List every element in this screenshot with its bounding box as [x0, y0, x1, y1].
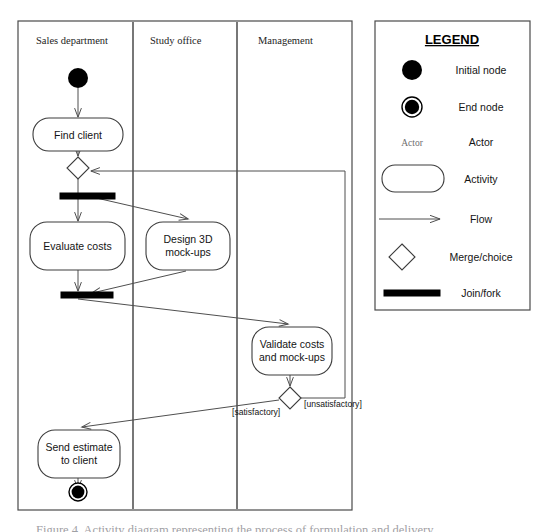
activity-node-validate-label-line2: and mock-ups [259, 351, 325, 363]
activity-node-send-estimate[interactable]: Send estimate to client [38, 430, 120, 478]
flow-design-mockups-to-join [92, 271, 186, 293]
figure-caption-text: Figure 4. Activity diagram representing … [0, 524, 548, 532]
merge-diamond-icon [389, 244, 415, 270]
legend-row-initial-node: Initial node [402, 60, 507, 80]
legend-label-end-node: End node [459, 101, 504, 113]
activity-node-design-mockups-label-line1: Design 3D [163, 233, 212, 245]
legend-label-flow: Flow [470, 213, 493, 225]
legend-title: LEGEND [425, 32, 479, 47]
legend-label-merge-choice: Merge/choice [449, 251, 512, 263]
guard-label-satisfactory: [satisfactory] [232, 407, 280, 417]
end-node-core [72, 486, 85, 499]
activity-node-find-client-label: Find client [54, 129, 102, 141]
actor-icon: Actor [401, 138, 423, 148]
swimlane-title-study: Study office [150, 35, 202, 46]
activity-node-evaluate-costs[interactable]: Evaluate costs [30, 222, 125, 270]
legend-label-activity: Activity [464, 173, 498, 185]
end-node [69, 483, 87, 501]
legend-label-join-fork: Join/fork [461, 287, 501, 299]
activity-node-send-estimate-label-line2: to client [61, 454, 97, 466]
choice-diamond [279, 387, 301, 409]
activity-node-design-mockups[interactable]: Design 3D mock-ups [146, 222, 230, 270]
activity-node-send-estimate-label-line1: Send estimate [45, 441, 112, 453]
activity-node-find-client[interactable]: Find client [33, 118, 123, 151]
legend-row-end-node: End node [402, 97, 504, 117]
legend-label-actor: Actor [469, 136, 494, 148]
merge-diamond [67, 157, 89, 179]
flow-edges [78, 88, 345, 489]
activity-node-validate[interactable]: Validate costs and mock-ups [252, 327, 332, 375]
swimlane-title-sales: Sales department [36, 35, 108, 46]
initial-node-icon [402, 60, 422, 80]
activity-diagram-page: Sales department Study office Management [0, 0, 548, 532]
legend-label-initial-node: Initial node [456, 64, 507, 76]
activity-nodes: Find client Evaluate costs Design 3D moc… [30, 68, 332, 501]
legend-row-activity: Activity [382, 165, 498, 192]
join-bar [61, 292, 113, 298]
flow-join-to-validate [78, 299, 288, 324]
activity-node-design-mockups-label-line2: mock-ups [165, 246, 211, 258]
activity-icon [382, 165, 444, 192]
flow-fork-to-design-mockups [92, 197, 188, 219]
guard-label-unsatisfactory: [unsatisfactory] [304, 399, 362, 409]
uml-activity-diagram-canvas: Sales department Study office Management [0, 0, 548, 532]
legend-panel: LEGEND Initial node End node Actor Actor… [375, 21, 530, 310]
activity-node-validate-label-line1: Validate costs [260, 338, 325, 350]
initial-node [68, 68, 88, 88]
end-node-icon-core [405, 100, 419, 114]
swimlane-headers: Sales department Study office Management [36, 35, 313, 46]
figure-caption: Figure 4. Activity diagram representing … [0, 524, 548, 532]
legend-row-actor: Actor Actor [401, 136, 494, 148]
legend-row-merge-choice: Merge/choice [389, 244, 513, 270]
fork-bar [60, 193, 115, 199]
activity-node-evaluate-costs-label: Evaluate costs [43, 240, 111, 252]
swimlane-title-management: Management [258, 35, 313, 46]
legend-row-flow: Flow [379, 213, 493, 225]
legend-row-join-fork: Join/fork [384, 287, 502, 299]
join-fork-icon [384, 290, 440, 296]
